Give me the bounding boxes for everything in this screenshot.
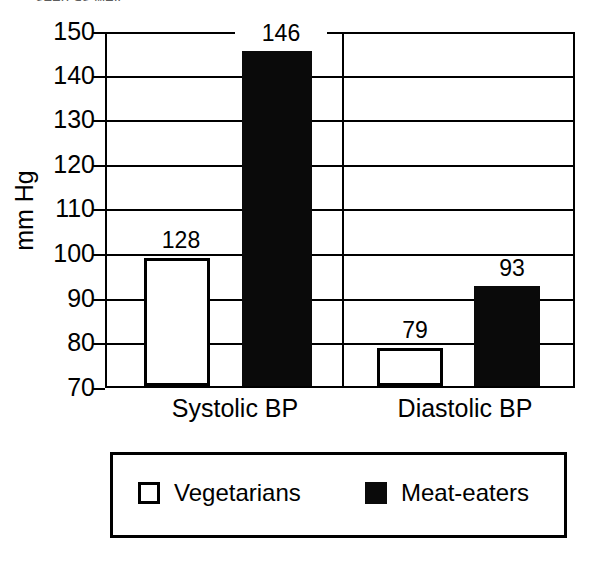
y-tick-label-140: 140 xyxy=(5,63,95,88)
y-tick-mark-100 xyxy=(93,254,105,256)
y-tick-mark-150 xyxy=(93,32,105,34)
legend-label-vegetarians: Vegetarians xyxy=(174,481,301,505)
y-tick-mark-120 xyxy=(93,165,105,167)
legend-label-meat-eaters: Meat-eaters xyxy=(401,481,529,505)
y-tick-label-90: 90 xyxy=(5,286,95,311)
y-tick-label-80: 80 xyxy=(5,330,95,355)
gridline-130 xyxy=(107,120,573,122)
bar-value-diastolic-vegetarians: 79 xyxy=(369,319,461,342)
gridline-140 xyxy=(107,76,573,78)
bar-diastolic-meat-eaters[interactable] xyxy=(474,286,540,386)
bar-value-systolic-vegetarians: 128 xyxy=(135,229,227,252)
group-divider xyxy=(342,34,344,386)
y-axis-title: mm Hg xyxy=(10,141,39,281)
y-tick-mark-140 xyxy=(93,76,105,78)
legend-swatch-filled-square-icon xyxy=(365,482,387,504)
y-tick-mark-70 xyxy=(93,388,105,390)
legend: Vegetarians Meat-eaters xyxy=(110,452,567,538)
y-tick-mark-90 xyxy=(93,299,105,301)
legend-item-vegetarians[interactable]: Vegetarians xyxy=(138,481,301,505)
gridline-120 xyxy=(107,165,573,167)
y-tick-mark-130 xyxy=(93,120,105,122)
x-group-label-systolic: Systolic BP xyxy=(125,394,345,422)
legend-item-meat-eaters[interactable]: Meat-eaters xyxy=(365,481,529,505)
y-axis-ticks: 150 140 130 120 110 100 90 80 70 xyxy=(0,0,105,586)
bar-systolic-meat-eaters[interactable] xyxy=(242,51,312,386)
bar-systolic-vegetarians[interactable] xyxy=(144,258,210,386)
legend-swatch-open-square-icon xyxy=(138,482,160,504)
bar-diastolic-vegetarians[interactable] xyxy=(377,348,443,386)
bar-value-systolic-meat-eaters: 146 xyxy=(235,22,327,45)
y-tick-label-70: 70 xyxy=(5,375,95,400)
y-tick-label-130: 130 xyxy=(5,107,95,132)
bar-value-diastolic-meat-eaters: 93 xyxy=(466,257,558,280)
gridline-110 xyxy=(107,209,573,211)
plot-area: 128 146 79 93 xyxy=(105,32,575,388)
x-group-label-diastolic: Diastolic BP xyxy=(355,394,575,422)
y-tick-label-150: 150 xyxy=(5,19,95,44)
y-tick-mark-110 xyxy=(93,209,105,211)
y-tick-mark-80 xyxy=(93,343,105,345)
